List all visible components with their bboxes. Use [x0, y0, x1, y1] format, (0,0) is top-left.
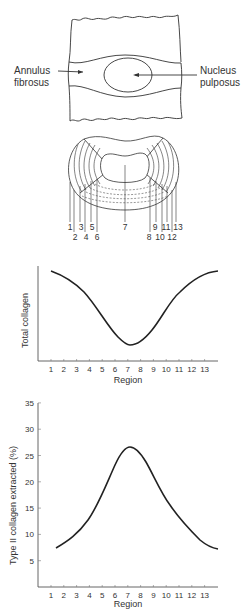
- region-label: 10: [155, 232, 165, 242]
- chart-type-ii-collagen: 3530252015105 Type II collagen extracted…: [8, 399, 218, 609]
- x-tick-label: 3: [74, 591, 79, 600]
- x-tick-label: 9: [151, 591, 156, 600]
- type-ii-collagen-curve: [56, 447, 218, 549]
- disc-cross-section: [69, 136, 179, 232]
- x-tick-label: 13: [200, 365, 209, 374]
- y-axis-label: Type II collagen extracted (%): [8, 446, 18, 565]
- x-tick-label: 4: [87, 365, 92, 374]
- annulus-label: Annulus: [14, 65, 50, 76]
- y-tick-label: 35: [25, 399, 34, 408]
- x-tick-label: 11: [175, 591, 184, 600]
- region-label: 7: [123, 222, 128, 232]
- x-tick-label: 5: [100, 365, 105, 374]
- x-tick-label: 9: [151, 365, 156, 374]
- x-axis-label: Region: [114, 599, 143, 609]
- y-tick-label: 15: [25, 504, 34, 513]
- x-tick-label: 6: [113, 365, 118, 374]
- x-tick-label: 7: [126, 365, 131, 374]
- x-tick-label: 10: [162, 591, 171, 600]
- figure: Annulus fibrosus Nucleus pulposus: [0, 0, 245, 612]
- arrow-icon: [133, 73, 139, 77]
- y-tick-label: 20: [25, 478, 34, 487]
- region-label: 8: [147, 232, 152, 242]
- region-label: 6: [95, 232, 100, 242]
- x-tick-label: 12: [187, 591, 196, 600]
- x-tick-label: 1: [49, 591, 54, 600]
- total-collagen-curve: [51, 271, 218, 345]
- nucleus-label: pulposus: [200, 77, 240, 88]
- x-tick-label: 13: [200, 591, 209, 600]
- x-tick-label: 10: [162, 365, 171, 374]
- nucleus-label: Nucleus: [200, 65, 236, 76]
- region-label: 13: [173, 222, 183, 232]
- x-tick-label: 5: [100, 591, 105, 600]
- arrow-icon: [78, 70, 83, 74]
- y-tick-label: 30: [25, 425, 34, 434]
- y-tick-label: 5: [30, 557, 35, 566]
- region-label: 2: [73, 232, 78, 242]
- x-tick-label: 2: [62, 591, 67, 600]
- x-tick-label: 12: [187, 365, 196, 374]
- region-label: 1: [68, 222, 73, 232]
- x-tick-label: 11: [175, 365, 184, 374]
- spine-diagram: [58, 15, 197, 121]
- region-label: 4: [84, 232, 89, 242]
- y-axis-label: Total collagen: [20, 293, 30, 348]
- y-tick-label: 25: [25, 452, 34, 461]
- disc-upper-edge: [69, 55, 181, 63]
- x-tick-label: 3: [74, 365, 79, 374]
- lower-vertebra: [69, 86, 182, 121]
- region-label: 3: [79, 222, 84, 232]
- x-tick-label: 1: [49, 365, 54, 374]
- x-tick-label: 4: [87, 591, 92, 600]
- x-axis-label: Region: [114, 375, 143, 385]
- x-tick-label: 8: [138, 365, 143, 374]
- disc-lower-edge: [69, 86, 181, 97]
- x-tick-label: 2: [62, 365, 67, 374]
- region-label: 5: [90, 222, 95, 232]
- chart-total-collagen: Total collagen 12345678910111213 Region: [20, 266, 218, 385]
- region-label: 11: [162, 222, 171, 232]
- region-label: 9: [153, 222, 158, 232]
- region-label: 12: [167, 232, 177, 242]
- annulus-label: fibrosus: [14, 77, 49, 88]
- y-tick-label: 10: [25, 530, 34, 539]
